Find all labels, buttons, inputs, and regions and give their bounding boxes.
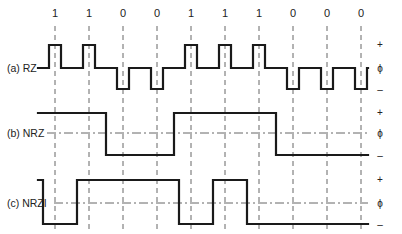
bit-sequence-labels: 1100111000 (52, 7, 364, 19)
level-label-plus: + (377, 174, 383, 185)
bit-label: 0 (324, 7, 330, 19)
level-label-minus: – (377, 219, 383, 230)
level-label-plus: + (377, 107, 383, 118)
waveform-nrz (38, 113, 368, 155)
level-label-minus: – (377, 150, 383, 161)
level-label-zero: ϕ (377, 128, 383, 139)
level-label-minus: – (377, 84, 383, 95)
bit-label: 0 (290, 7, 296, 19)
line-coding-diagram: 1100111000 (a) RZ+ϕ–(b) NRZ+ϕ–(c) NRZI+ϕ… (0, 0, 402, 234)
waveform-rz (38, 45, 368, 89)
bit-label: 0 (154, 7, 160, 19)
row-label-nrz: (b) NRZ (7, 127, 45, 139)
level-label-plus: + (377, 39, 383, 50)
level-label-zero: ϕ (377, 63, 383, 74)
bit-label: 0 (120, 7, 126, 19)
bit-label: 1 (188, 7, 194, 19)
row-label-nrzi: (c) NRZI (7, 197, 47, 209)
bit-guide-lines (55, 26, 361, 232)
level-label-zero: ϕ (377, 198, 383, 209)
waveform-canvas: 1100111000 (a) RZ+ϕ–(b) NRZ+ϕ–(c) NRZI+ϕ… (0, 0, 402, 234)
row-label-rz: (a) RZ (7, 62, 37, 74)
bit-label: 0 (358, 7, 364, 19)
bit-label: 1 (222, 7, 228, 19)
bit-label: 1 (52, 7, 58, 19)
bit-label: 1 (86, 7, 92, 19)
waveform-nrzi (38, 180, 368, 224)
bit-label: 1 (256, 7, 262, 19)
